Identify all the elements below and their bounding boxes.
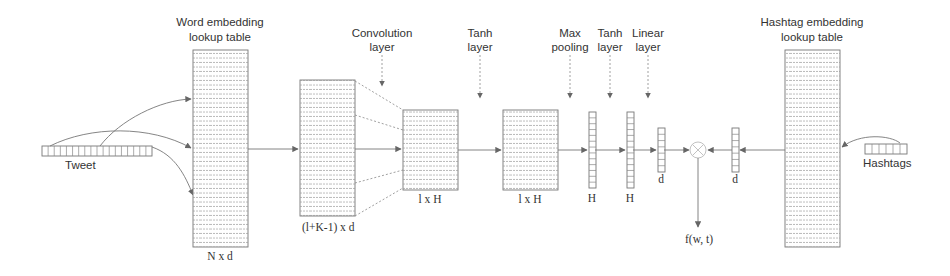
maxpool-title-1: Max	[559, 27, 581, 39]
convolution-title-2: layer	[370, 41, 395, 53]
output-label: f(w, t)	[685, 233, 713, 246]
maxpool-title-2: pooling	[551, 41, 588, 53]
word-table-dim-label: N x d	[207, 250, 233, 262]
conv-window-line-2	[355, 115, 403, 130]
word-embedding-title-1: Word embedding	[176, 16, 263, 28]
hashtag-vector-dim-label: d	[732, 173, 738, 185]
conv-window-line-1	[355, 81, 403, 110]
tanh2-vector	[627, 112, 634, 188]
maxpool-vector	[589, 112, 596, 188]
tweet-to-table-arrow-2	[50, 131, 191, 148]
hashtag-embedding-title-1: Hashtag embedding	[761, 16, 864, 28]
conv-input-dim-label: (l+K-1) x d	[302, 221, 355, 234]
linear-dim-label: d	[658, 173, 664, 185]
hashtag-vector	[732, 128, 739, 172]
tanh-output-matrix	[503, 110, 558, 190]
tweet-input-vector	[42, 146, 152, 156]
word-embedding-table	[193, 50, 248, 247]
tweet-to-table-arrow-3	[152, 147, 193, 195]
linear-vector	[658, 128, 665, 172]
conv-input-matrix	[300, 80, 355, 216]
hashtag-embedding-title-2: lookup table	[781, 31, 843, 43]
conv-window-line-3	[355, 170, 403, 183]
hashtags-input-vector	[865, 144, 907, 154]
tanh2-title-2: layer	[598, 41, 623, 53]
tanh2-dim-label: H	[626, 192, 634, 204]
conv-output-matrix	[403, 110, 458, 190]
architecture-diagram: Tweet Word embedding lookup table N x d …	[0, 0, 950, 276]
conv-window-line-4	[355, 188, 403, 216]
linear-title-1: Linear	[632, 27, 664, 39]
linear-title-2: layer	[636, 41, 661, 53]
hashtag-embedding-table	[785, 50, 840, 247]
tanh1-title-1: Tanh	[468, 27, 493, 39]
tweet-to-table-arrow-1	[100, 99, 191, 146]
hashtags-label: Hashtags	[863, 157, 912, 169]
product-operator	[690, 142, 706, 158]
word-embedding-title-2: lookup table	[189, 31, 251, 43]
tweet-label: Tweet	[65, 159, 96, 171]
tanh-output-dim-label: l x H	[519, 193, 542, 205]
tanh1-title-2: layer	[468, 41, 493, 53]
tanh2-title-1: Tanh	[598, 27, 623, 39]
convolution-title-1: Convolution	[352, 27, 413, 39]
maxpool-dim-label: H	[588, 192, 596, 204]
conv-output-dim-label: l x H	[419, 193, 442, 205]
